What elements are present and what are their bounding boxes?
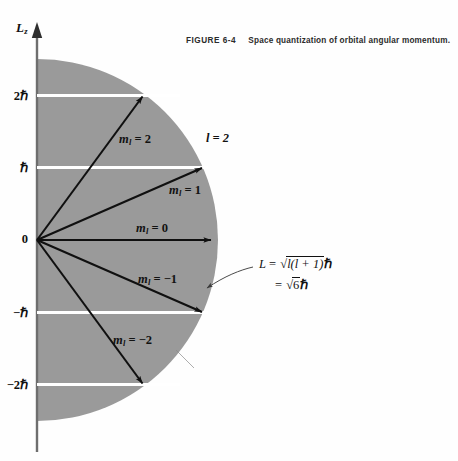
vector-label-ml-minus-1-eq: = −1 [153, 272, 177, 286]
tick-label-minus-1hbar: −ℏ [0, 305, 28, 321]
figure-container: FIGURE 6-4 Space quantization of orbital… [0, 0, 458, 461]
vector-label-ml-1: ml = 1 [169, 183, 201, 198]
leader-line-ml-minus-2 [176, 350, 194, 368]
tick-label-2hbar: 2ℏ [0, 88, 28, 104]
lz-axis-arrowhead [32, 22, 42, 38]
vector-label-ml-0-m: m [136, 221, 146, 235]
vector-label-ml-minus-1: ml = −1 [138, 272, 177, 287]
L-symbol: L [259, 257, 266, 271]
L-equals-2: = [275, 278, 282, 292]
vector-label-ml-1-sub: l [179, 188, 182, 198]
figure-caption-number: FIGURE 6-4 [186, 36, 236, 45]
vector-label-ml-0-sub: l [146, 226, 149, 236]
vector-label-ml-minus-1-sub: l [148, 277, 151, 287]
L-equals-1: = [269, 257, 276, 271]
vector-label-ml-minus-2-m: m [113, 333, 123, 347]
space-quantization-diagram [0, 0, 458, 461]
tick-label-1hbar: ℏ [0, 160, 28, 176]
vector-label-ml-2-sub: l [129, 137, 132, 147]
vector-label-ml-minus-1-m: m [138, 272, 148, 286]
lz-axis-label: Lz [16, 20, 27, 36]
L-magnitude-formula-line1: L = √l(l + 1)ℏ [259, 256, 332, 272]
L-radicand-2: 6 [293, 278, 299, 292]
sqrt-symbol-1: √l(l + 1) [279, 256, 324, 272]
vector-label-ml-2-m: m [119, 132, 129, 146]
figure-caption: FIGURE 6-4 Space quantization of orbital… [186, 36, 454, 45]
vector-label-ml-minus-2-sub: l [123, 338, 126, 348]
L-radicand-1: l(l + 1) [287, 257, 323, 271]
sqrt-symbol-2: √6 [285, 277, 300, 293]
vector-label-ml-2-eq: = 2 [134, 132, 151, 146]
vector-label-ml-1-eq: = 1 [184, 183, 201, 197]
vector-label-ml-0-eq: = 0 [151, 221, 168, 235]
vector-label-ml-0: ml = 0 [136, 221, 168, 236]
vector-label-ml-2: ml = 2 [119, 132, 151, 147]
tick-label-origin: 0 [0, 232, 28, 247]
lz-axis-label-main: L [16, 20, 24, 35]
L-magnitude-formula-line2: = √6ℏ [275, 277, 308, 293]
hbar-symbol-1: ℏ [324, 257, 332, 271]
vector-label-ml-minus-2: ml = −2 [113, 333, 152, 348]
tick-label-minus-2hbar: −2ℏ [0, 377, 28, 393]
hbar-symbol-2: ℏ [300, 278, 308, 292]
figure-caption-text: Space quantization of orbital angular mo… [248, 36, 450, 45]
l-value-label-text: l = 2 [206, 131, 229, 145]
l-value-label: l = 2 [206, 131, 229, 146]
vector-label-ml-minus-2-eq: = −2 [128, 333, 152, 347]
lz-axis-label-subscript: z [24, 26, 28, 36]
vector-label-ml-1-m: m [169, 183, 179, 197]
